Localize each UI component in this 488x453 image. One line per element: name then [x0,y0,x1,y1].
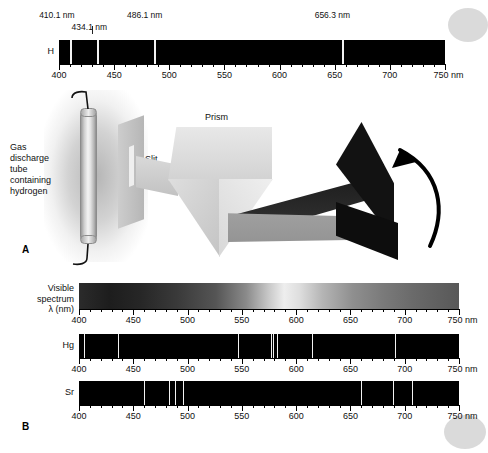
axis-tick-minor [147,64,148,67]
emission-line [361,381,362,405]
axis-tick-label: 750 nm [434,70,464,80]
axis-tick-minor [394,405,395,408]
mercury-label: Hg [44,334,79,351]
axis-baseline [79,358,459,359]
axis-tick-minor [329,309,330,312]
axis-tick-label: 650 [343,364,358,374]
axis-baseline [79,405,459,406]
strontium-label: Sr [44,381,79,398]
axis-tick-minor [220,358,221,361]
axis-tick-minor [90,309,91,312]
axis-tick-minor [307,358,308,361]
axis-tick-minor [158,64,159,67]
visible-spectrum-strip: 400450500550600650700750 nm [79,283,459,328]
axis-tick-minor [202,64,203,67]
panel-a-letter: A [22,244,29,255]
axis-tick-minor [253,309,254,312]
visible-spectrum-label: Visible spectrum λ (nm) [22,283,79,315]
prism-top-face [168,127,272,181]
axis-tick-label: 400 [51,70,66,80]
axis-tick-minor [372,358,373,361]
axis-tick-minor [220,309,221,312]
axis-tick-minor [434,64,435,67]
axis-tick-minor [307,309,308,312]
axis-tick-minor [70,64,71,67]
axis-tick-minor [412,64,413,67]
axis-tick-label: 500 [162,70,177,80]
axis-tick-minor [361,405,362,408]
axis-tick-minor [383,358,384,361]
axis-tick-minor [285,358,286,361]
axis-tick-label: 700 [397,315,412,325]
axis-tick-minor [318,405,319,408]
visible-spectrum-row: Visible spectrum λ (nm) 4004505005506006… [22,283,459,328]
axis-tick-minor [394,309,395,312]
axis-tick-minor [274,405,275,408]
axis-baseline [79,309,459,310]
axis-tick-label: 650 [343,315,358,325]
axis-tick-minor [437,405,438,408]
axis-tick-label: 400 [71,364,86,374]
emission-line [70,40,72,64]
axis-tick-minor [361,358,362,361]
emission-line [84,334,85,358]
axis-tick-minor [122,309,123,312]
slit-aperture [129,145,134,187]
axis-tick-minor [401,64,402,67]
axis-tick-minor [324,64,325,67]
axis-tick-minor [313,64,314,67]
emission-line [144,381,145,405]
panel-b-letter: B [22,421,29,432]
axis-tick-minor [246,64,247,67]
prism-label: Prism [205,112,228,123]
axis-tick-minor [274,309,275,312]
axis-tick-minor [340,405,341,408]
axis-tick-label: 750 nm [448,364,478,374]
hydrogen-wavelength-callout: 410.1 nm [39,10,74,20]
axis-tick-minor [125,64,126,67]
axis-tick-label: 600 [289,315,304,325]
axis-tick-minor [213,64,214,67]
axis-tick-minor [383,309,384,312]
axis-tick-minor [198,309,199,312]
axis-tick-minor [155,405,156,408]
emission-line [97,40,99,64]
axis-tick-minor [379,64,380,67]
axis-tick-minor [361,309,362,312]
axis-tick-minor [144,405,145,408]
axis-tick-minor [426,309,427,312]
visible-spectrum-axis: 400450500550600650700750 nm [79,309,459,328]
axis-tick-label: 500 [180,411,195,421]
emission-line [238,334,239,358]
mercury-axis: 400450500550600650700750 nm [79,358,459,377]
axis-tick-minor [155,358,156,361]
emission-line [154,40,156,64]
axis-tick-minor [437,309,438,312]
emission-line [183,381,184,405]
axis-tick-minor [274,358,275,361]
axis-tick-minor [231,405,232,408]
axis-tick-label: 650 [327,70,342,80]
axis-tick-label: 500 [180,315,195,325]
source-label: Gas discharge tube containing hydrogen [10,142,72,197]
callout-leader-line [92,26,93,34]
axis-tick-minor [383,405,384,408]
strontium-band [79,381,459,405]
axis-tick-minor [302,64,303,67]
axis-tick-label: 750 nm [448,411,478,421]
axis-tick-label: 650 [343,411,358,421]
axis-tick-minor [253,405,254,408]
emission-line [277,334,278,358]
mercury-strip: 400450500550600650700750 nm [79,334,459,377]
page-artifact-top [448,8,488,42]
emission-line [395,334,396,358]
emission-line [271,334,272,358]
axis-tick-label: 400 [71,315,86,325]
axis-tick-label: 550 [217,70,232,80]
axis-tick-minor [426,405,427,408]
hydrogen-band [59,40,445,64]
axis-tick-minor [103,64,104,67]
axis-tick-minor [209,405,210,408]
hydrogen-wavelength-callout: 486.1 nm [127,10,162,20]
apparatus-diagram: Gas discharge tube containing hydrogen S… [0,84,478,274]
